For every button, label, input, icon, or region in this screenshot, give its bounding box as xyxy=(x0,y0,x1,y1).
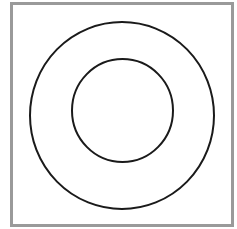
concentric-circles-diagram xyxy=(0,0,237,229)
outer-circle xyxy=(30,22,214,209)
inner-circle xyxy=(72,59,173,162)
